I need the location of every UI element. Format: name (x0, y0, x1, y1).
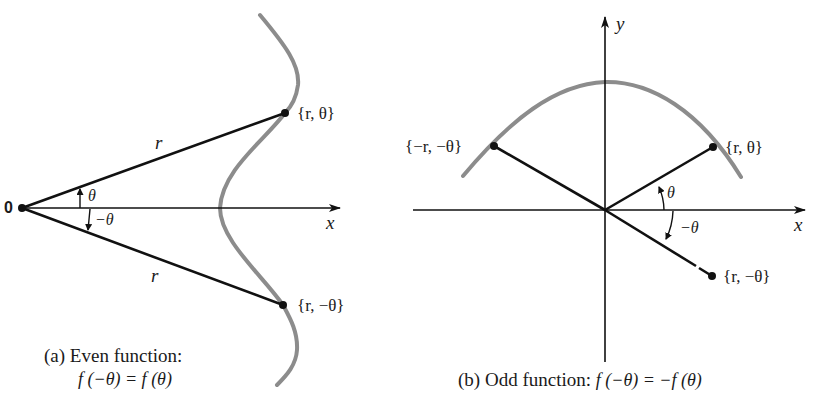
caption-b-formula: f (−θ) = −f (θ) (596, 370, 702, 390)
x-axis-label-b: x (794, 215, 802, 234)
x-axis-label-a: x (326, 213, 334, 232)
radius-line-first-quadrant (605, 147, 713, 210)
angle-arc-positive (659, 187, 664, 210)
angle-label-positive-a: θ (88, 188, 96, 204)
radius-line-upper (22, 113, 285, 208)
odd-function-curve (463, 82, 741, 177)
point-lower-a (279, 301, 287, 309)
panel-b-odd-function (413, 17, 805, 362)
origin-label-a: 0 (4, 200, 13, 216)
diagram-canvas (0, 0, 813, 400)
origin-point-a (18, 204, 26, 212)
angle-arc-negative (666, 211, 673, 239)
radius-label-lower: r (151, 266, 158, 285)
caption-b: (b) Odd function: f (−θ) = −f (θ) (458, 370, 702, 389)
point-upper-a (281, 109, 289, 117)
point-second-quadrant (490, 142, 498, 150)
radius-line-second-quadrant (494, 146, 605, 210)
point-lower-label-a: {r, −θ} (297, 297, 345, 314)
even-function-curve (220, 15, 298, 385)
caption-a-line1: (a) Even function: (44, 346, 182, 365)
radius-label-upper: r (155, 133, 162, 152)
point-first-quadrant-label: {r, θ} (725, 139, 763, 156)
angle-label-negative-a: −θ (95, 212, 114, 228)
point-second-quadrant-label: {−r, −θ} (405, 138, 462, 155)
angle-arrow-negative (88, 209, 90, 230)
point-fourth-quadrant-label: {r, −θ} (723, 268, 771, 285)
point-fourth-quadrant (708, 272, 716, 280)
caption-b-prefix: (b) Odd function: (458, 369, 596, 390)
point-first-quadrant (709, 143, 717, 151)
point-upper-label-a: {r, θ} (297, 105, 335, 122)
angle-label-negative-b: −θ (680, 220, 699, 236)
y-axis-label-b: y (616, 14, 624, 33)
caption-a-formula: f (−θ) = f (θ) (78, 370, 172, 388)
panel-a-even-function (18, 15, 340, 385)
angle-label-positive-b: θ (667, 185, 675, 201)
